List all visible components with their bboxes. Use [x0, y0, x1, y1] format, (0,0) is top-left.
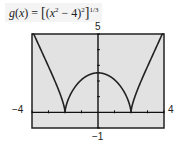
xmin-label: −4 — [12, 104, 23, 115]
graph-plot — [0, 0, 182, 146]
xmax-label: 4 — [168, 104, 174, 115]
ymax-label: 5 — [95, 21, 101, 32]
ymin-label: −1 — [92, 131, 103, 142]
